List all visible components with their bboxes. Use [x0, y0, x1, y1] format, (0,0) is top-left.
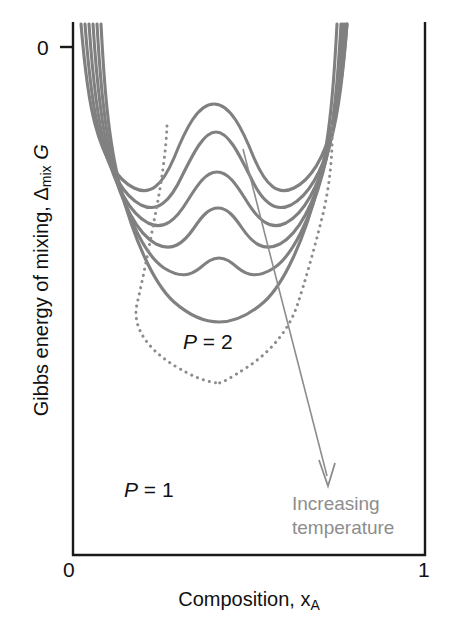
increasing-temperature-line-1: Increasing: [292, 492, 394, 516]
x-axis-title: Composition, xA: [73, 588, 425, 613]
increasing-temperature-arrow: [243, 149, 335, 486]
phase-symbol-p: P: [124, 478, 138, 501]
x-axis-title-prefix: Composition, x: [178, 588, 310, 610]
plot-frame: [60, 22, 426, 556]
phase-label-one-phase: P = 1: [124, 478, 174, 502]
gibbs-curve-5: [97, 24, 341, 275]
binodal-right-branch: [219, 126, 332, 383]
y-axis-title-prefix: Gibbs energy of mixing, Δ: [30, 187, 52, 416]
phase-label-two-phase: P = 2: [183, 330, 233, 354]
x-tick-label-1: 1: [418, 558, 430, 582]
y-axis-title-subscript: mix: [38, 165, 54, 187]
gibbs-curves-group: [81, 24, 347, 322]
gibbs-curve-4: [93, 24, 343, 247]
y-axis-title: Gibbs energy of mixing, Δmix G: [30, 80, 55, 480]
gibbs-curve-1: [81, 24, 347, 191]
y-axis-title-suffix: G: [30, 144, 52, 165]
increasing-temperature-label: Increasing temperature: [292, 492, 394, 540]
phase-symbol-p: P: [183, 330, 197, 353]
y-tick-label-0: 0: [37, 36, 49, 60]
x-axis-title-subscript: A: [310, 597, 319, 613]
gibbs-energy-of-mixing-figure: 0 Gibbs energy of mixing, Δmix G 0 1 Com…: [0, 0, 459, 628]
x-tick-label-0: 0: [63, 558, 75, 582]
phase-value-two: = 2: [197, 330, 233, 353]
phase-value-one: = 1: [138, 478, 174, 501]
binodal-dotted-curve: [136, 126, 332, 383]
increasing-temperature-line-2: temperature: [292, 516, 394, 540]
